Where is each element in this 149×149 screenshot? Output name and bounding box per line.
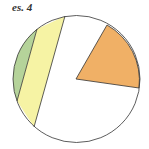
circle-diagram [0,0,149,149]
